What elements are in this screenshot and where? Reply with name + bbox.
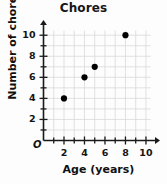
data-point — [81, 74, 87, 80]
y-tick-label: 10 — [20, 29, 36, 40]
data-point — [61, 95, 67, 101]
x-tick-label: 4 — [77, 147, 91, 158]
x-tick-label: 10 — [139, 147, 153, 158]
axis-lines — [40, 20, 160, 144]
grid-lines — [44, 30, 151, 140]
axis-ticks — [40, 35, 146, 144]
data-point — [122, 32, 128, 38]
y-tick-label: 8 — [20, 50, 36, 61]
x-tick-label: 8 — [118, 147, 132, 158]
chart-container: Chores Number of chores Age (years) O 24… — [0, 0, 167, 184]
y-tick-label: 2 — [20, 113, 36, 124]
data-point — [92, 64, 98, 70]
y-tick-label: 4 — [20, 92, 36, 103]
x-tick-label: 2 — [57, 147, 71, 158]
y-tick-label: 6 — [20, 71, 36, 82]
x-tick-label: 6 — [98, 147, 112, 158]
